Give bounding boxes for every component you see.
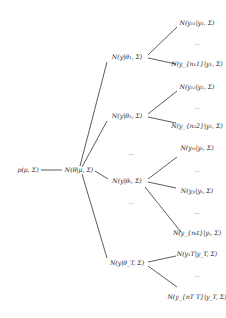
- leaf-2-1: N(y₁₂|y₂, Σ): [179, 84, 214, 90]
- ellipsis-groups-lower: ...: [128, 198, 134, 205]
- leaf-ellipsis-1: ...: [194, 39, 200, 46]
- ellipsis-groups-upper: ...: [128, 149, 134, 156]
- group-node-T: N(y|θ_T, Σ): [110, 260, 144, 266]
- group-node-t: N(y|θₜ, Σ): [112, 178, 141, 184]
- leaf-t-n: N(y_{nₜt}|yₜ, Σ): [173, 230, 221, 236]
- leaf-ellipsis-t-2: ...: [194, 208, 200, 215]
- leaf-t-1: N(y₁ₜ|yₜ, Σ): [180, 145, 213, 151]
- tree-edges: [0, 0, 226, 318]
- leaf-ellipsis-t-1: ...: [194, 166, 200, 173]
- group-node-1: N(y|θ₁, Σ): [112, 54, 142, 60]
- leaf-1-n: N(y_{n₁1}|y₁, Σ): [171, 61, 222, 67]
- leaf-t-j: N(yⱼₜ|yₜ, Σ): [181, 188, 213, 194]
- theta-node: N(θ|μ, Σ): [65, 167, 93, 173]
- leaf-1-1: N(y₁₁|y₁, Σ): [179, 20, 214, 26]
- leaf-ellipsis-2: ...: [194, 103, 200, 110]
- leaf-T-1: N(y₁T|y_T, Σ): [177, 251, 218, 257]
- group-node-2: N(y|θ₂, Σ): [112, 113, 142, 119]
- leaf-2-n: N(y_{n₂2}|y₂, Σ): [171, 123, 222, 129]
- root-node: p(μ, Σ): [17, 167, 38, 173]
- leaf-T-n: N(y_{nT T}|y_T, Σ): [167, 294, 226, 300]
- leaf-ellipsis-T: ...: [194, 271, 200, 278]
